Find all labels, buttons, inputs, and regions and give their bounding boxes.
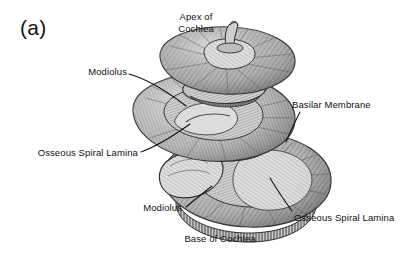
panel-letter-a: (a): [20, 16, 47, 40]
label-osseous-spiral-lamina-upper: Osseous Spiral Lamina: [14, 147, 138, 159]
label-basilar-membrane: Basilar Membrane: [292, 99, 412, 111]
label-apex-of-cochlea: Apex of Cochlea: [156, 11, 236, 34]
label-modiolus-upper: Modiolus: [49, 66, 127, 78]
cochlea-figure: (a) Apex of Cochlea Modiolus Basilar Mem…: [0, 0, 419, 259]
label-modiolus-lower: Modiolus: [104, 202, 182, 214]
label-base-of-cochlea: Base of Cochlea: [150, 233, 290, 245]
label-osseous-spiral-lamina-lower: Osseous Spiral Lamina: [294, 212, 416, 224]
